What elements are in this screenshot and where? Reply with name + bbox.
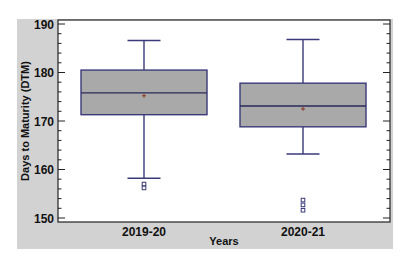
y-axis-tick-labels: 150160170180190 — [34, 18, 54, 226]
y-tick-label: 170 — [34, 115, 54, 129]
outlier-point — [142, 182, 146, 186]
outlier-point — [142, 186, 146, 190]
x-tick-label: 2019-20 — [122, 225, 166, 239]
y-tick-label: 150 — [34, 212, 54, 226]
outlier-point — [301, 203, 305, 207]
outlier-point — [301, 198, 305, 202]
outlier-point — [301, 208, 305, 212]
iqr-box — [240, 83, 366, 127]
y-tick-label: 160 — [34, 163, 54, 177]
box-plot-chart: 150160170180190 2019-202020-21 Years Day… — [0, 0, 406, 262]
x-tick-label: 2020-21 — [281, 225, 325, 239]
y-tick-label: 180 — [34, 66, 54, 80]
y-axis-title: Days to Maturity (DTM) — [19, 61, 31, 181]
x-axis-title: Years — [209, 235, 238, 247]
y-tick-label: 190 — [34, 18, 54, 32]
